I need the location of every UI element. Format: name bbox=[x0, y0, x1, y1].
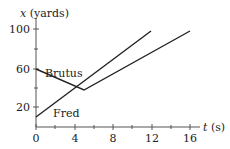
y-tick-label-60: 60 bbox=[16, 63, 30, 76]
x-tick-label-12: 12 bbox=[145, 132, 159, 145]
y-tick-label-100: 100 bbox=[9, 23, 30, 36]
x-tick-label-16: 16 bbox=[183, 132, 197, 145]
x-axis-title: t (s) bbox=[203, 121, 225, 134]
x-tick-label-8: 8 bbox=[110, 132, 117, 145]
y-axis-title: x (yards) bbox=[20, 7, 69, 20]
series-label-brutus: Brutus bbox=[45, 67, 83, 80]
series-label-fred: Fred bbox=[53, 107, 79, 120]
position-time-chart: 100 60 20 0 4 8 12 16 x (yards) t (s) Br… bbox=[0, 0, 230, 149]
x-tick-label-0: 0 bbox=[33, 132, 40, 145]
y-tick-label-20: 20 bbox=[16, 101, 30, 114]
series-line-brutus bbox=[36, 31, 190, 90]
x-tick-label-4: 4 bbox=[72, 132, 79, 145]
